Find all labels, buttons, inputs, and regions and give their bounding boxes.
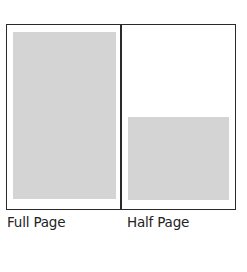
half-page-ad-area	[128, 117, 229, 200]
half-page-label: Half Page	[127, 214, 189, 230]
full-page-label: Full Page	[7, 214, 65, 230]
full-page-ad-area	[13, 32, 116, 199]
page-divider	[120, 24, 122, 210]
